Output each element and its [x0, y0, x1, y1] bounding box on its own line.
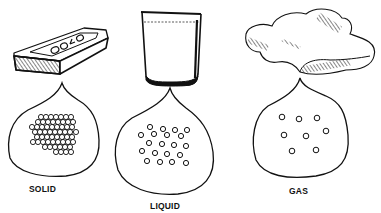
glass-icon [141, 12, 201, 86]
gas-label: GAS [289, 186, 308, 196]
liquid-magnifier-drop [115, 88, 213, 194]
gas-particles [279, 114, 329, 154]
solid-particles [29, 114, 78, 154]
liquid-label: LIQUID [150, 201, 180, 211]
liquid-particles [138, 124, 189, 165]
states-of-matter-diagram [0, 0, 381, 213]
solid-label: SOLID [29, 184, 56, 194]
cloud-icon [246, 9, 375, 74]
gas-magnifier-drop [253, 78, 348, 177]
gold-bar-icon [14, 28, 108, 74]
